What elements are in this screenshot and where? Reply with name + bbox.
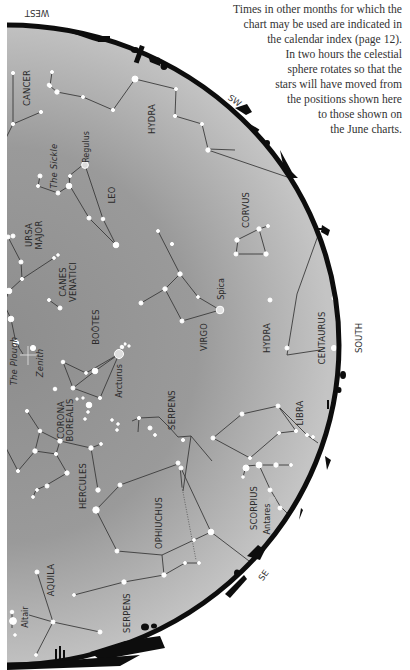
label-corona-borealis-2: BOREALIS <box>65 398 75 441</box>
note-line: to those shown on <box>202 107 402 122</box>
label-canes-venatici-1: CANES <box>58 267 68 296</box>
label-scorpius: SCORPIUS <box>249 486 259 530</box>
label-libra: LIBRA <box>295 400 305 425</box>
label-aquila: AQUILA <box>46 564 56 597</box>
label-serpens-upper: SERPENS <box>167 390 177 430</box>
chart-usage-note: Times in other months for which the char… <box>202 2 402 137</box>
label-altair: Altair <box>21 606 30 628</box>
label-ophiuchus: OPHIUCHUS <box>154 497 164 549</box>
label-centaurus: CENTAURUS <box>317 312 327 365</box>
note-line: the calendar index (page 12). <box>202 32 402 47</box>
note-line: Times in other months for which the <box>202 2 402 17</box>
direction-se: SE <box>256 568 270 583</box>
label-hydra-lower: HYDRA <box>262 323 272 353</box>
label-ursa-major-1: URSA <box>24 223 34 247</box>
label-bootes: BOÖTES <box>91 309 101 345</box>
note-line: chart may be used are indicated in <box>202 17 402 32</box>
note-line: the June charts. <box>202 122 402 137</box>
label-zenith: Zenith <box>35 349 45 378</box>
label-corvus: CORVUS <box>241 192 251 228</box>
label-cancer: CANCER <box>22 70 32 106</box>
label-ursa-major-2: MAJOR <box>34 221 44 250</box>
label-virgo: VIRGO <box>199 323 209 351</box>
label-the-sickle: The Sickle <box>49 144 59 189</box>
label-arcturus: Arcturus <box>115 364 124 398</box>
note-line: In two hours the celestial <box>202 47 402 62</box>
label-hercules: HERCULES <box>78 463 88 509</box>
label-hydra-upper: HYDRA <box>147 104 157 134</box>
note-line: stars will have moved from <box>202 77 402 92</box>
label-spica: Spica <box>217 278 226 300</box>
note-line: sphere rotates so that the <box>202 62 402 77</box>
label-serpens-lower: SERPENS <box>122 593 132 633</box>
label-canes-venatici-2: VENATICI <box>68 262 78 302</box>
direction-south: SOUTH <box>354 323 364 353</box>
label-leo: LEO <box>107 186 117 203</box>
label-regulus: Regulus <box>82 131 91 163</box>
label-antares: Antares <box>263 504 272 535</box>
direction-west: WEST <box>24 8 49 18</box>
label-the-plough: The Plough <box>9 337 19 386</box>
note-line: the positions shown here <box>202 92 402 107</box>
